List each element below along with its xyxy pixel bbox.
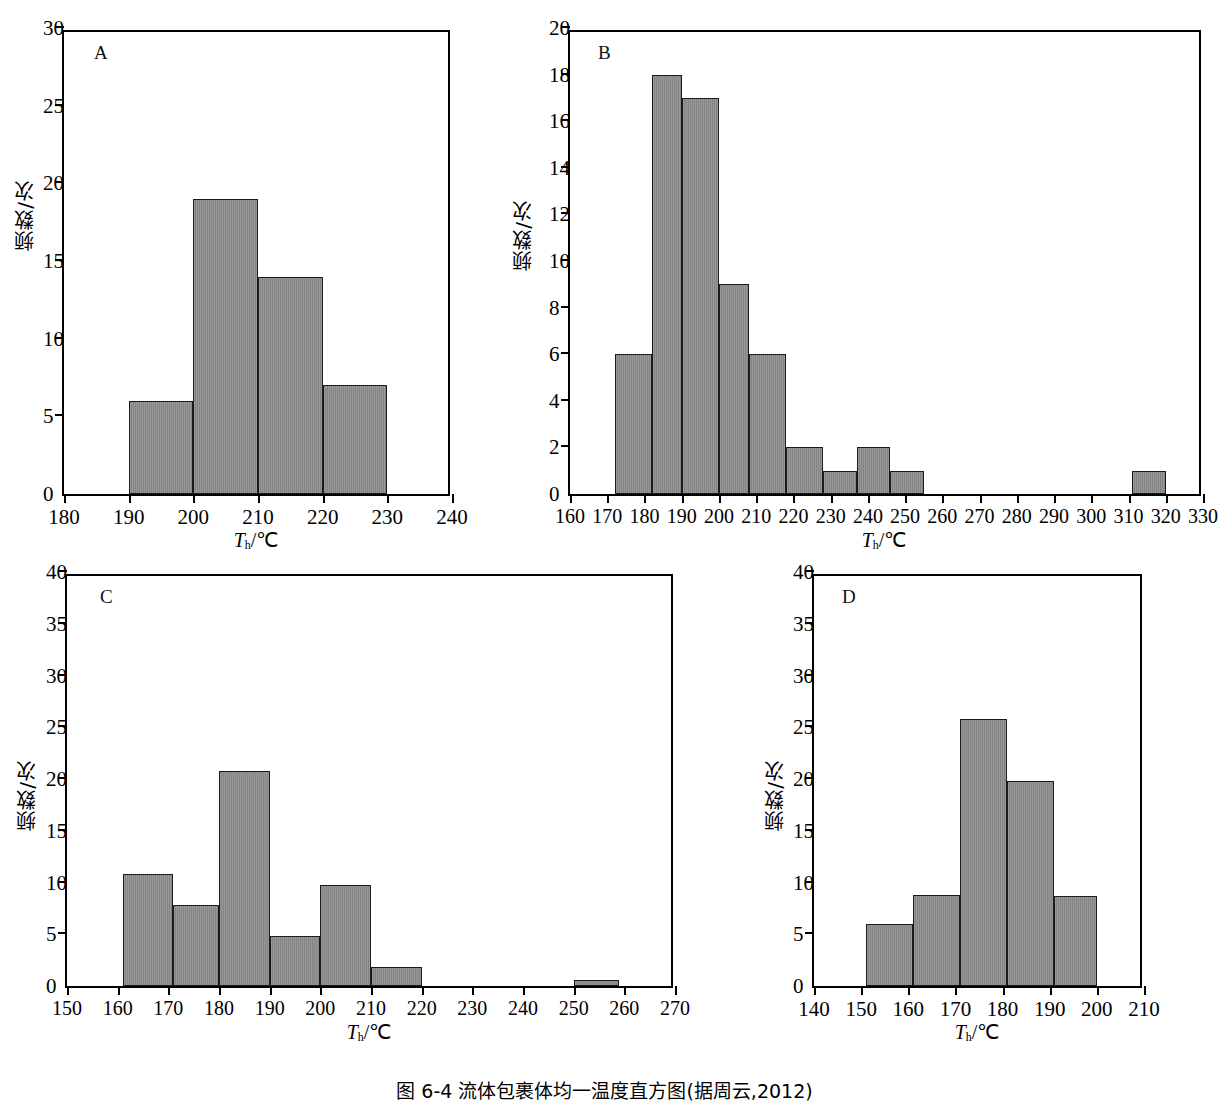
x-axis-tick-label: 150 xyxy=(845,997,877,1022)
x-axis-tick-label: 210 xyxy=(242,505,274,530)
y-axis-tick-label: 16 xyxy=(549,109,556,134)
x-axis-tick xyxy=(868,494,870,503)
panel-a-plot-frame: A 051015202530180190200210220230240 xyxy=(62,30,450,496)
y-axis-tick-label: 0 xyxy=(46,974,53,999)
x-axis-tick xyxy=(219,986,221,995)
y-axis-tick xyxy=(58,932,67,934)
x-axis-tick xyxy=(118,986,120,995)
x-axis-tick xyxy=(270,986,272,995)
panel-c-x-axis-title: Th/℃ xyxy=(347,1020,392,1045)
histogram-bar xyxy=(193,199,258,494)
x-axis-tick xyxy=(193,494,195,503)
panel-b-y-axis-title: 频数/次 xyxy=(508,200,537,271)
histogram-bar xyxy=(890,471,924,494)
panel-b-x-axis-title: Th/℃ xyxy=(862,528,907,553)
panel-b-bars xyxy=(570,32,1199,494)
x-axis-tick xyxy=(1129,494,1131,503)
histogram-bar xyxy=(786,447,823,494)
x-axis-tick-label: 190 xyxy=(113,505,145,530)
x-axis-tick-label: 180 xyxy=(48,505,80,530)
x-axis-tick xyxy=(129,494,131,503)
histogram-bar xyxy=(173,905,219,986)
x-axis-tick-label: 230 xyxy=(816,505,846,528)
histogram-bar xyxy=(574,980,620,986)
x-axis-tick xyxy=(675,986,677,995)
x-axis-tick-label: 250 xyxy=(890,505,920,528)
x-axis-tick-label: 220 xyxy=(407,997,437,1020)
x-axis-tick xyxy=(624,986,626,995)
x-axis-tick xyxy=(980,494,982,503)
x-axis-tick-label: 300 xyxy=(1076,505,1106,528)
x-axis-tick xyxy=(1144,986,1146,995)
panel-c-plot-frame: C 05101520253035401501601701801902002102… xyxy=(65,574,673,988)
x-axis-tick xyxy=(1091,494,1093,503)
panel-c-y-axis-title: 频数/次 xyxy=(12,760,41,831)
y-axis-tick xyxy=(805,932,814,934)
y-axis-tick-label: 14 xyxy=(549,155,556,180)
x-axis-tick-label: 240 xyxy=(853,505,883,528)
histogram-bar xyxy=(823,471,857,494)
x-axis-tick xyxy=(1054,494,1056,503)
y-axis-tick-label: 5 xyxy=(43,404,50,429)
x-axis-tick xyxy=(607,494,609,503)
y-axis-tick-label: 30 xyxy=(793,663,800,688)
x-axis-tick xyxy=(1050,986,1052,995)
histogram-bar xyxy=(1007,781,1054,986)
y-axis-tick-label: 5 xyxy=(793,922,800,947)
x-axis-tick-label: 170 xyxy=(153,997,183,1020)
x-axis-tick xyxy=(1017,494,1019,503)
histogram-bar xyxy=(652,75,682,494)
x-axis-tick xyxy=(793,494,795,503)
histogram-bar xyxy=(323,385,388,494)
y-axis-tick xyxy=(561,445,570,447)
y-axis-tick-label: 0 xyxy=(549,482,556,507)
x-axis-tick xyxy=(452,494,454,503)
y-axis-tick-label: 15 xyxy=(46,818,53,843)
x-axis-tick xyxy=(67,986,69,995)
histogram-bar xyxy=(866,924,913,986)
x-axis-tick-label: 160 xyxy=(893,997,925,1022)
x-axis-tick-label: 330 xyxy=(1188,505,1218,528)
x-axis-tick-label: 200 xyxy=(704,505,734,528)
panel-a-x-axis-title: Th/℃ xyxy=(234,528,279,553)
x-axis-tick-label: 240 xyxy=(508,997,538,1020)
y-axis-tick-label: 25 xyxy=(46,715,53,740)
x-axis-tick xyxy=(719,494,721,503)
x-axis-tick xyxy=(942,494,944,503)
y-axis-tick-label: 10 xyxy=(43,326,50,351)
x-axis-tick-label: 200 xyxy=(1081,997,1113,1022)
panel-d-bars xyxy=(814,576,1140,986)
y-axis-tick-label: 4 xyxy=(549,388,556,413)
histogram-bar xyxy=(615,354,652,494)
x-axis-tick xyxy=(861,986,863,995)
y-axis-tick-label: 30 xyxy=(43,16,50,41)
x-axis-tick-label: 160 xyxy=(555,505,585,528)
y-axis-tick-label: 20 xyxy=(43,171,50,196)
histogram-bar xyxy=(857,447,891,494)
x-axis-tick xyxy=(831,494,833,503)
histogram-bar xyxy=(123,874,174,986)
x-axis-tick-label: 190 xyxy=(1034,997,1066,1022)
x-axis-tick-label: 280 xyxy=(1002,505,1032,528)
x-axis-tick xyxy=(1097,986,1099,995)
y-axis-tick-label: 25 xyxy=(43,93,50,118)
y-axis-tick-label: 20 xyxy=(549,16,556,41)
y-axis-tick xyxy=(55,414,64,416)
histogram-bar xyxy=(719,284,749,494)
panel-a-bars xyxy=(64,32,448,494)
panel-d-plot-frame: D 05101520253035401401501601701801902002… xyxy=(812,574,1142,988)
panel-d-y-axis-title: 频数/次 xyxy=(760,760,789,831)
histogram-bar xyxy=(1054,896,1096,986)
histogram-bar xyxy=(371,967,422,986)
x-axis-tick-label: 220 xyxy=(778,505,808,528)
x-axis-tick xyxy=(570,494,572,503)
x-axis-tick-label: 170 xyxy=(592,505,622,528)
x-axis-tick-label: 190 xyxy=(667,505,697,528)
x-axis-tick xyxy=(320,986,322,995)
x-axis-tick xyxy=(682,494,684,503)
x-axis-tick-label: 180 xyxy=(204,997,234,1020)
x-axis-tick-label: 270 xyxy=(965,505,995,528)
y-axis-tick-label: 2 xyxy=(549,435,556,460)
x-axis-tick-label: 200 xyxy=(178,505,210,530)
y-axis-tick-label: 6 xyxy=(549,342,556,367)
